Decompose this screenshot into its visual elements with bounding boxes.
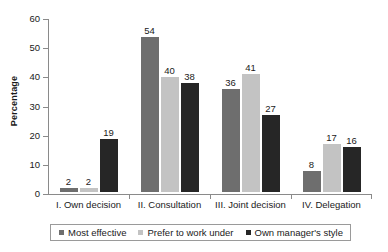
bar-value-label: 16 <box>346 135 357 146</box>
bar-value-label: 8 <box>309 159 314 170</box>
y-tick-50: 50 <box>43 48 48 49</box>
legend-item-label: Most effective <box>68 227 126 238</box>
y-tick-label-30: 30 <box>29 101 40 112</box>
bar-1-1[interactable]: 2 <box>59 187 79 193</box>
legend-swatch-icon <box>137 229 144 236</box>
y-tick-label-10: 10 <box>29 159 40 170</box>
y-tick-label-0: 0 <box>35 188 40 199</box>
bar-2-2[interactable]: 40 <box>160 76 180 193</box>
y-axis-line <box>48 19 49 195</box>
bar-value-label: 54 <box>144 25 155 36</box>
bar-1-3[interactable]: 19 <box>99 138 119 193</box>
bar-value-label: 17 <box>326 132 337 143</box>
y-axis-title: Percentage <box>9 51 19 151</box>
bar-group-4: 81716 <box>302 18 362 193</box>
x-category-label-1: I. Own decision <box>48 199 129 210</box>
legend-item-label: Own manager's style <box>255 227 343 238</box>
bar-value-label: 36 <box>225 77 236 88</box>
legend-item-2[interactable]: Prefer to work under <box>137 227 233 238</box>
bar-value-label: 38 <box>184 71 195 82</box>
legend-swatch-icon <box>58 229 65 236</box>
y-tick-label-20: 20 <box>29 130 40 141</box>
legend-item-1[interactable]: Most effective <box>58 227 126 238</box>
bar-value-label: 19 <box>103 127 114 138</box>
bar-group-1: 2219 <box>59 18 119 193</box>
bar-value-label: 2 <box>86 176 91 187</box>
bar-value-label: 2 <box>66 176 71 187</box>
legend-swatch-icon <box>245 229 252 236</box>
y-tick-20: 20 <box>43 136 48 137</box>
bar-4-2[interactable]: 17 <box>322 143 342 193</box>
legend-item-label: Prefer to work under <box>147 227 233 238</box>
bar-2-1[interactable]: 54 <box>140 36 160 194</box>
bar-4-1[interactable]: 8 <box>302 170 322 193</box>
chart-legend: Most effectivePrefer to work underOwn ma… <box>50 224 351 241</box>
bar-3-3[interactable]: 27 <box>261 114 281 193</box>
y-tick-label-40: 40 <box>29 71 40 82</box>
x-category-label-2: II. Consultation <box>129 199 210 210</box>
y-tick-label-60: 60 <box>29 13 40 24</box>
legend-item-3[interactable]: Own manager's style <box>245 227 343 238</box>
y-tick-10: 10 <box>43 165 48 166</box>
bar-1-2[interactable]: 2 <box>79 187 99 193</box>
y-tick-30: 30 <box>43 107 48 108</box>
bar-value-label: 41 <box>245 62 256 73</box>
bar-group-2: 544038 <box>140 18 200 193</box>
x-category-label-4: IV. Delegation <box>291 199 372 210</box>
y-tick-40: 40 <box>43 77 48 78</box>
bar-3-2[interactable]: 41 <box>241 73 261 193</box>
plot-area: 0102030405060 221954403836412781716 <box>48 19 372 194</box>
bar-value-label: 40 <box>164 65 175 76</box>
bar-chart: Percentage 0102030405060 221954403836412… <box>0 0 388 252</box>
bar-4-3[interactable]: 16 <box>342 146 362 193</box>
x-category-label-3: III. Joint decision <box>210 199 291 210</box>
bar-value-label: 27 <box>265 103 276 114</box>
bar-2-3[interactable]: 38 <box>180 82 200 193</box>
bar-3-1[interactable]: 36 <box>221 88 241 193</box>
bar-group-3: 364127 <box>221 18 281 193</box>
y-tick-0: 0 <box>43 194 48 195</box>
y-tick-label-50: 50 <box>29 42 40 53</box>
y-tick-60: 60 <box>43 19 48 20</box>
